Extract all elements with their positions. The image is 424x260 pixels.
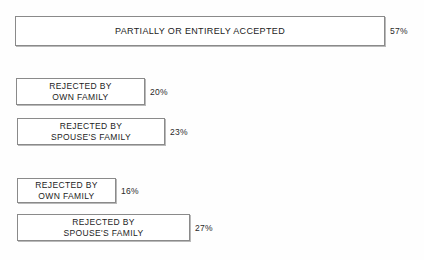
bar-row: PARTIALLY OR ENTIRELY ACCEPTED 57% bbox=[15, 16, 408, 46]
bar-row: REJECTED BY OWN FAMILY 20% bbox=[16, 78, 168, 105]
bar-rejected-spouse-family-a: REJECTED BY SPOUSE'S FAMILY bbox=[17, 118, 165, 145]
bar-label: REJECTED BY OWN FAMILY bbox=[45, 81, 115, 102]
bar-rejected-spouse-family-b: REJECTED BY SPOUSE'S FAMILY bbox=[17, 214, 190, 241]
bar-row: REJECTED BY OWN FAMILY 16% bbox=[17, 178, 139, 203]
bar-rejected-own-family-a: REJECTED BY OWN FAMILY bbox=[16, 78, 145, 105]
bar-row: REJECTED BY SPOUSE'S FAMILY 23% bbox=[17, 118, 188, 145]
bar-label: REJECTED BY SPOUSE'S FAMILY bbox=[60, 217, 148, 238]
bar-value-label: 20% bbox=[150, 87, 168, 97]
bar-value-label: 23% bbox=[170, 127, 188, 137]
bar-value-label: 57% bbox=[390, 26, 408, 36]
bar-value-label: 27% bbox=[195, 223, 213, 233]
bar-chart: PARTIALLY OR ENTIRELY ACCEPTED 57% REJEC… bbox=[0, 0, 424, 260]
bar-rejected-own-family-b: REJECTED BY OWN FAMILY bbox=[17, 178, 116, 203]
bar-accepted: PARTIALLY OR ENTIRELY ACCEPTED bbox=[15, 16, 385, 46]
bar-row: REJECTED BY SPOUSE'S FAMILY 27% bbox=[17, 214, 213, 241]
bar-label: PARTIALLY OR ENTIRELY ACCEPTED bbox=[111, 26, 289, 37]
bar-value-label: 16% bbox=[121, 186, 139, 196]
bar-label: REJECTED BY SPOUSE'S FAMILY bbox=[47, 121, 135, 142]
bar-label: REJECTED BY OWN FAMILY bbox=[31, 180, 101, 201]
